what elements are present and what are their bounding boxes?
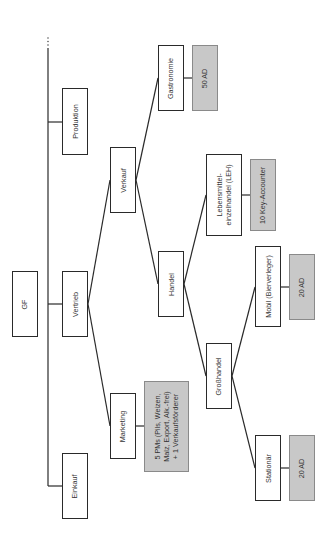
edge-vertrieb-verkauf	[88, 180, 110, 304]
node-label: 10 Key-Accounter	[259, 166, 268, 223]
node-label: Einkauf	[70, 474, 79, 498]
node-leh: Lebensmittel- einzelhandel (LEH)	[206, 154, 242, 236]
edge-grosshandel-stationaer	[232, 376, 255, 468]
node-label: GF	[20, 299, 29, 309]
node-label: Vertrieb	[71, 292, 80, 317]
node-label: Großhandel	[215, 357, 224, 395]
node-label: 5 PMs (Pils, Weizen, Malz, Export, Alk.-…	[153, 391, 180, 461]
node-label: 20 AD	[298, 458, 307, 478]
node-label: Gastronomie	[167, 57, 176, 98]
node-leh-staff: 10 Key-Accounter	[250, 159, 276, 231]
edge-verkauf-handel	[136, 180, 158, 284]
node-label: Handel	[167, 273, 176, 296]
node-handel: Handel	[158, 251, 184, 317]
node-label: Produktion	[71, 104, 80, 138]
edge-handel-grosshandel	[184, 284, 206, 376]
node-label: 50 AD	[201, 68, 210, 88]
node-einkauf: Einkauf	[62, 453, 88, 519]
node-label: 20 AD	[298, 277, 307, 297]
edge-vertrieb-marketing	[88, 304, 110, 426]
node-mobil: Mobil (Bierverleger)	[255, 246, 281, 327]
node-vertrieb: Vertrieb	[62, 271, 88, 337]
ellipsis-icon	[47, 37, 49, 46]
node-produktion: Produktion	[62, 88, 88, 155]
node-marketing-staff: 5 PMs (Pils, Weizen, Malz, Export, Alk.-…	[144, 381, 189, 472]
node-grosshandel: Großhandel	[206, 343, 232, 409]
node-stationaer-staff: 20 AD	[289, 435, 315, 501]
node-gastronomie-staff: 50 AD	[192, 45, 218, 111]
node-marketing: Marketing	[110, 393, 136, 459]
node-label: Verkauf	[119, 168, 128, 192]
node-label: Mobil (Bierverleger)	[264, 255, 273, 318]
node-label: Stationär	[264, 454, 273, 483]
edge-verkauf-gastronomie	[136, 78, 158, 180]
node-label: Marketing	[119, 410, 128, 442]
edge-grosshandel-mobil	[232, 287, 255, 376]
node-gf: GF	[12, 271, 38, 337]
node-verkauf: Verkauf	[110, 147, 136, 213]
edge-handel-leh	[184, 195, 206, 284]
node-label: Lebensmittel- einzelhandel (LEH)	[215, 164, 233, 225]
node-gastronomie: Gastronomie	[158, 45, 184, 111]
node-stationaer: Stationär	[255, 435, 281, 501]
node-mobil-staff: 20 AD	[289, 254, 315, 320]
